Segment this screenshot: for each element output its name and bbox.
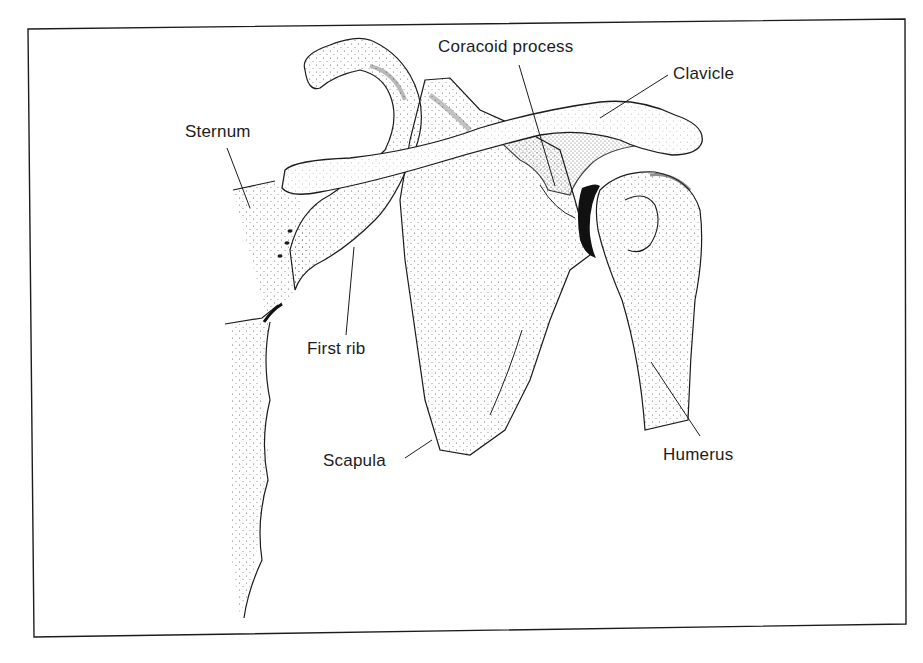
- label-coracoid-process: Coracoid process: [438, 37, 573, 57]
- label-scapula: Scapula: [323, 451, 386, 471]
- humerus-bone: [596, 172, 701, 430]
- label-humerus: Humerus: [663, 445, 733, 465]
- label-clavicle: Clavicle: [673, 64, 734, 84]
- label-sternum: Sternum: [185, 122, 251, 142]
- shoulder-girdle-drawing: [0, 0, 923, 663]
- label-first-rib: First rib: [307, 339, 365, 359]
